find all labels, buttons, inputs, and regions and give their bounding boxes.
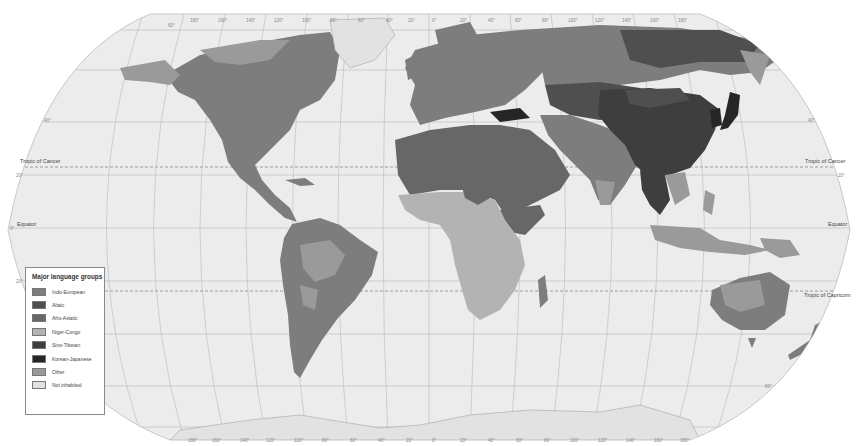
svg-text:140°: 140° <box>246 18 256 23</box>
swatch-niger-congo <box>32 328 46 336</box>
svg-text:20°: 20° <box>408 18 415 23</box>
legend: Major language groups Indo-European Alta… <box>25 267 105 415</box>
lat-tick: 0° <box>10 226 15 231</box>
world-map: Tropic of Cancer Tropic of Cancer Equato… <box>0 0 859 446</box>
lat-tick: 20° <box>838 173 845 178</box>
swatch-indo-european <box>32 288 46 296</box>
legend-item-not-inhabited: Not inhabited <box>32 379 98 392</box>
svg-text:120°: 120° <box>266 438 276 443</box>
lat-tick: 20° <box>16 279 23 284</box>
svg-text:100°: 100° <box>302 18 312 23</box>
legend-item-indo-european: Indo-European <box>32 285 98 298</box>
tropic-of-cancer-label-left: Tropic of Cancer <box>20 158 61 164</box>
svg-text:180°: 180° <box>678 18 688 23</box>
tropic-of-cancer-label-right: Tropic of Cancer <box>805 158 846 164</box>
svg-text:160°: 160° <box>650 18 660 23</box>
swatch-not-inhabited <box>32 381 46 389</box>
lat-tick: 40° <box>44 118 51 123</box>
svg-text:60°: 60° <box>515 18 522 23</box>
svg-text:180°: 180° <box>680 438 690 443</box>
svg-text:120°: 120° <box>598 438 608 443</box>
legend-item-afro-asiatic: Afro-Asiatic <box>32 312 98 325</box>
svg-text:140°: 140° <box>626 438 636 443</box>
svg-text:160°: 160° <box>654 438 664 443</box>
svg-text:60°: 60° <box>358 18 365 23</box>
lat-tick: 20° <box>16 173 23 178</box>
svg-text:120°: 120° <box>595 18 605 23</box>
svg-text:80°: 80° <box>322 438 329 443</box>
svg-text:40°: 40° <box>488 18 495 23</box>
tropic-of-capricorn-label: Tropic of Capricorn <box>804 292 851 298</box>
svg-text:120°: 120° <box>274 18 284 23</box>
legend-item-niger-congo: Niger-Congo <box>32 325 98 338</box>
korea <box>710 108 722 128</box>
legend-item-altaic: Altaic <box>32 298 98 311</box>
legend-title: Major language groups <box>32 273 98 280</box>
svg-text:180°: 180° <box>190 18 200 23</box>
svg-text:40°: 40° <box>488 438 495 443</box>
svg-text:160°: 160° <box>218 18 228 23</box>
svg-text:100°: 100° <box>294 438 304 443</box>
equator-label-left: Equator <box>17 221 36 227</box>
svg-text:20°: 20° <box>460 438 467 443</box>
svg-text:20°: 20° <box>406 438 413 443</box>
svg-text:80°: 80° <box>330 18 337 23</box>
legend-item-sino-tibetan: Sino-Tibetan <box>32 339 98 352</box>
svg-text:0°: 0° <box>432 438 437 443</box>
svg-text:60°: 60° <box>516 438 523 443</box>
legend-item-other: Other <box>32 365 98 378</box>
legend-item-korean-japanese: Korean-Japanese <box>32 352 98 365</box>
lat-tick: 60° <box>168 23 175 28</box>
swatch-sino-tibetan <box>32 341 46 349</box>
lat-tick: 40° <box>808 118 815 123</box>
svg-text:160°: 160° <box>212 438 222 443</box>
svg-text:80°: 80° <box>542 18 549 23</box>
svg-text:140°: 140° <box>622 18 632 23</box>
svg-text:80°: 80° <box>544 438 551 443</box>
svg-text:60°: 60° <box>350 438 357 443</box>
svg-text:100°: 100° <box>568 18 578 23</box>
svg-text:180°: 180° <box>188 438 198 443</box>
swatch-other <box>32 368 46 376</box>
swatch-afro-asiatic <box>32 314 46 322</box>
swatch-altaic <box>32 301 46 309</box>
svg-text:140°: 140° <box>240 438 250 443</box>
svg-text:100°: 100° <box>570 438 580 443</box>
equator-label-right: Equator <box>828 221 847 227</box>
lat-tick: 60° <box>765 384 772 389</box>
svg-text:20°: 20° <box>460 18 467 23</box>
svg-text:40°: 40° <box>386 18 393 23</box>
swatch-korean-japanese <box>32 355 46 363</box>
svg-text:40°: 40° <box>378 438 385 443</box>
svg-text:0°: 0° <box>432 18 437 23</box>
